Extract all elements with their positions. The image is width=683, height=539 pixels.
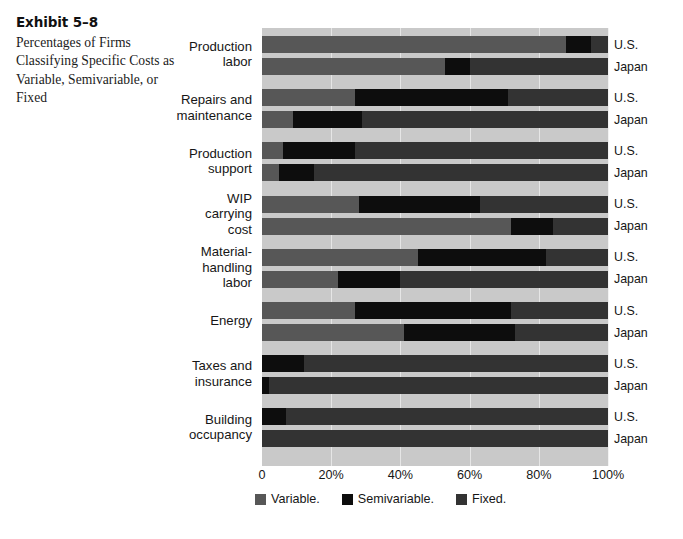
category-label: Energy: [156, 313, 252, 328]
x-tick-label: 100%: [592, 468, 624, 482]
series-label-us: U.S.: [614, 144, 638, 158]
bar-segment-variable[interactable]: [262, 36, 566, 53]
bar-row[interactable]: [262, 377, 608, 394]
bar-segment-variable[interactable]: [262, 111, 293, 128]
bar-segment-semivariable[interactable]: [262, 355, 304, 372]
category-label-line: Taxes and: [156, 358, 252, 373]
series-label-japan: Japan: [614, 326, 648, 340]
bar-row[interactable]: [262, 164, 608, 181]
bar-segment-fixed[interactable]: [304, 355, 608, 372]
series-label-us: U.S.: [614, 250, 638, 264]
series-label-japan: Japan: [614, 432, 648, 446]
category-label-line: labor: [156, 54, 252, 69]
series-label-japan: Japan: [614, 219, 648, 233]
series-label-us: U.S.: [614, 304, 638, 318]
bar-segment-fixed[interactable]: [314, 164, 608, 181]
category-label-line: occupancy: [156, 427, 252, 442]
bar-segment-variable[interactable]: [262, 218, 511, 235]
bar-segment-variable[interactable]: [262, 324, 404, 341]
bar-segment-semivariable[interactable]: [283, 142, 356, 159]
legend-swatch-semivariable: [342, 494, 353, 505]
bar-row[interactable]: [262, 58, 608, 75]
bar-segment-fixed[interactable]: [362, 111, 608, 128]
bar-segment-fixed[interactable]: [515, 324, 608, 341]
bar-row[interactable]: [262, 302, 608, 319]
bar-segment-fixed[interactable]: [470, 58, 608, 75]
category-label: Material-handlinglabor: [156, 244, 252, 290]
bar-row[interactable]: [262, 430, 608, 447]
x-tick-label: 60%: [457, 468, 482, 482]
bar-segment-semivariable[interactable]: [293, 111, 362, 128]
bar-segment-variable[interactable]: [262, 58, 445, 75]
bar-segment-semivariable[interactable]: [404, 324, 515, 341]
bar-segment-semivariable[interactable]: [445, 58, 469, 75]
chart-plot-area: [262, 28, 608, 466]
bar-row[interactable]: [262, 218, 608, 235]
bar-segment-semivariable[interactable]: [262, 377, 269, 394]
legend-label-semivariable: Semivariable.: [358, 492, 434, 506]
category-label-line: support: [156, 161, 252, 176]
bar-segment-fixed[interactable]: [269, 377, 608, 394]
bar-row[interactable]: [262, 111, 608, 128]
category-label: Buildingoccupancy: [156, 412, 252, 443]
bar-segment-semivariable[interactable]: [279, 164, 314, 181]
category-label-line: Production: [156, 146, 252, 161]
bar-segment-semivariable[interactable]: [355, 302, 511, 319]
bar-segment-fixed[interactable]: [480, 196, 608, 213]
series-label-us: U.S.: [614, 357, 638, 371]
bar-segment-fixed[interactable]: [355, 142, 608, 159]
x-tick-label: 0: [258, 468, 265, 482]
legend-item-semivariable[interactable]: Semivariable.: [342, 492, 434, 506]
bar-segment-fixed[interactable]: [553, 218, 608, 235]
bar-row[interactable]: [262, 408, 608, 425]
bar-segment-variable[interactable]: [262, 142, 283, 159]
bar-segment-fixed[interactable]: [591, 36, 608, 53]
bar-segment-fixed[interactable]: [546, 249, 608, 266]
bar-segment-variable[interactable]: [262, 89, 355, 106]
stacked-bars-layer: [262, 28, 608, 466]
category-label-line: Energy: [156, 313, 252, 328]
category-label-line: handling: [156, 260, 252, 275]
bar-row[interactable]: [262, 249, 608, 266]
bar-row[interactable]: [262, 142, 608, 159]
series-label-us: U.S.: [614, 410, 638, 424]
bar-segment-semivariable[interactable]: [418, 249, 546, 266]
bar-segment-fixed[interactable]: [400, 271, 608, 288]
bar-segment-fixed[interactable]: [286, 408, 608, 425]
bar-segment-variable[interactable]: [262, 164, 279, 181]
category-label: Taxes andinsurance: [156, 358, 252, 389]
series-label-japan: Japan: [614, 272, 648, 286]
category-label-line: Repairs and: [156, 92, 252, 107]
bar-segment-variable[interactable]: [262, 302, 355, 319]
bar-segment-variable[interactable]: [262, 196, 359, 213]
series-label-japan: Japan: [614, 379, 648, 393]
bar-row[interactable]: [262, 36, 608, 53]
category-label-line: cost: [156, 222, 252, 237]
category-label-line: Material-: [156, 244, 252, 259]
legend-item-fixed[interactable]: Fixed.: [456, 492, 506, 506]
bar-segment-variable[interactable]: [262, 271, 338, 288]
bar-segment-fixed[interactable]: [262, 430, 608, 447]
category-label-line: Building: [156, 412, 252, 427]
bar-segment-semivariable[interactable]: [566, 36, 590, 53]
category-label-line: carrying: [156, 206, 252, 221]
bar-row[interactable]: [262, 324, 608, 341]
bar-segment-variable[interactable]: [262, 249, 418, 266]
bar-segment-semivariable[interactable]: [338, 271, 400, 288]
bar-segment-semivariable[interactable]: [511, 218, 553, 235]
bar-segment-semivariable[interactable]: [355, 89, 507, 106]
bar-segment-fixed[interactable]: [508, 89, 608, 106]
category-label-line: insurance: [156, 374, 252, 389]
bar-segment-semivariable[interactable]: [262, 408, 286, 425]
category-label-line: Production: [156, 39, 252, 54]
bar-row[interactable]: [262, 355, 608, 372]
bar-row[interactable]: [262, 196, 608, 213]
bar-segment-fixed[interactable]: [511, 302, 608, 319]
bar-row[interactable]: [262, 89, 608, 106]
legend-item-variable[interactable]: Variable.: [255, 492, 320, 506]
category-label-line: maintenance: [156, 108, 252, 123]
bar-segment-semivariable[interactable]: [359, 196, 480, 213]
category-label-line: WIP: [156, 191, 252, 206]
x-tick-label: 40%: [388, 468, 413, 482]
bar-row[interactable]: [262, 271, 608, 288]
